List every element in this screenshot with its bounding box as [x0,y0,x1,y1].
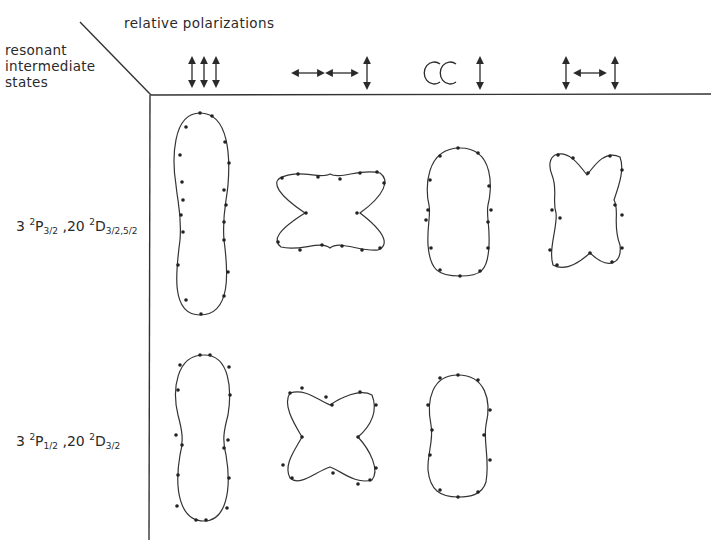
vertical-axis [149,95,150,540]
pattern-r1-c2 [277,172,385,250]
polarization-symbol-col1 [192,60,216,84]
figure-canvas [0,0,719,550]
diagonal-divider [80,22,151,95]
polarization-symbol-col2 [295,60,367,86]
polarization-symbol-col3 [424,60,480,86]
pattern-r1-c3 [427,148,490,276]
measured-points [174,111,624,522]
table-axes [80,22,711,540]
polarization-symbol-col4 [566,60,615,86]
pattern-r2-c3 [428,375,488,497]
pattern-r1-c4 [550,154,622,267]
pattern-r2-c1 [176,355,230,521]
horizontal-axis [151,94,711,95]
